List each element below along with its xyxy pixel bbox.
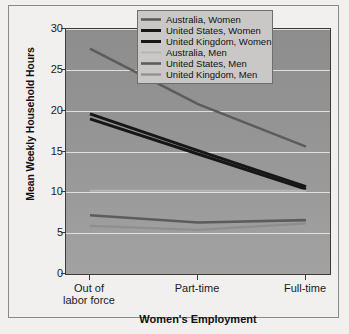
legend-item: Australia, Men <box>141 47 268 58</box>
x-tick-mark <box>89 275 90 280</box>
legend-swatch-icon <box>141 69 161 80</box>
series-line <box>90 119 306 189</box>
x-tick-label: Part-time <box>152 283 242 295</box>
x-tick-label-line: labor force <box>44 295 134 307</box>
legend-label: Australia, Women <box>166 14 241 25</box>
legend-label: United Kingdom, Women <box>166 36 271 47</box>
legend-item: United States, Women <box>141 25 268 36</box>
x-tick-label-line: Full-time <box>260 283 349 295</box>
legend-item: United Kingdom, Women <box>141 36 268 47</box>
series-line <box>90 114 306 187</box>
x-tick-label: Out oflabor force <box>44 283 134 306</box>
legend-item: Australia, Women <box>141 14 268 25</box>
x-tick-label: Full-time <box>260 283 349 295</box>
legend-item: United Kingdom, Men <box>141 69 268 80</box>
figure-frame: 302520151050 Mean Weekly Household Hours… <box>8 5 339 318</box>
x-axis-title: Women's Employment <box>65 313 331 325</box>
legend-item: United States, Men <box>141 58 268 69</box>
y-tick-label: 0 <box>17 268 63 278</box>
legend-label: United States, Men <box>166 58 247 69</box>
series-line <box>90 223 306 230</box>
legend-label: United States, Women <box>166 25 261 36</box>
legend-swatch-icon <box>141 25 161 36</box>
legend: Australia, WomenUnited States, WomenUnit… <box>137 10 273 84</box>
y-axis: 302520151050 <box>11 6 63 253</box>
legend-swatch-icon <box>141 14 161 25</box>
x-tick-mark <box>305 275 306 280</box>
legend-swatch-icon <box>141 36 161 47</box>
y-axis-title: Mean Weekly Household Hours <box>24 19 36 229</box>
x-tick-label-line: Part-time <box>152 283 242 295</box>
legend-swatch-icon <box>141 47 161 58</box>
series-line <box>90 215 306 222</box>
x-tick-mark <box>197 275 198 280</box>
legend-label: United Kingdom, Men <box>166 69 257 80</box>
figure: 302520151050 Mean Weekly Household Hours… <box>0 0 349 334</box>
legend-label: Australia, Men <box>166 47 227 58</box>
x-tick-label-line: Out of <box>44 283 134 295</box>
legend-swatch-icon <box>141 58 161 69</box>
